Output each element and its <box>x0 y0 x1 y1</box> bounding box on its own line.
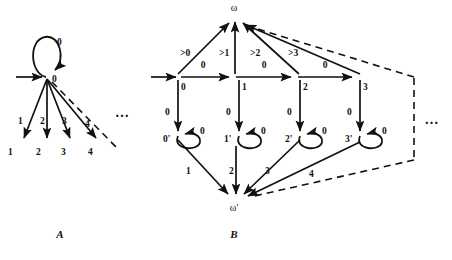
diagram-b-self-loop-label-0: 0 <box>200 126 205 136</box>
diagram-b-bottom-node-0: 0' <box>163 134 170 144</box>
diagram-a-edge-3 <box>47 79 70 138</box>
diagram-b-self-loop-0 <box>177 133 200 148</box>
diagram-a-edge-1 <box>24 79 47 138</box>
diagram-b-middle-node-2: 2 <box>303 82 308 92</box>
diagram-b-to-omega-label-2: >2 <box>250 48 260 58</box>
diagram-b-bottom-node-3: 3' <box>345 134 352 144</box>
diagram-b-to-omega-prime-label-1: 2 <box>229 166 234 176</box>
diagram-b-down-edge-label-0: 0 <box>165 107 170 117</box>
diagram-a: 0 0 1 2 3 4 1 2 3 4 … A <box>8 37 130 240</box>
diagram-b-to-omega-label-0: >0 <box>180 48 190 58</box>
diagram-b-bottom-node-1: 1' <box>224 134 231 144</box>
diagram-b-edge-dashed-to-omega <box>248 26 414 77</box>
diagram-b-to-omega-label-3: >3 <box>288 48 298 58</box>
diagram-b-horizontal-edge-label-2: 0 <box>262 60 267 70</box>
diagram-b: ω 0 0 0 0 1 2 3 >0 >1 >2 <box>151 2 440 240</box>
diagram-b-to-omega-prime-label-3: 4 <box>309 169 314 179</box>
diagram-b-self-loop-label-3: 0 <box>382 126 387 136</box>
diagram-b-ellipsis: … <box>425 112 440 127</box>
diagram-b-self-loop-2 <box>299 133 322 148</box>
diagram-b-middle-node-0: 0 <box>181 82 186 92</box>
diagram-b-bottom-node-label: ω' <box>230 202 239 213</box>
diagram-a-edge-label-3: 3 <box>62 116 67 126</box>
diagram-a-self-loop-label: 0 <box>57 37 62 47</box>
diagram-b-horizontal-edge-label-3: 0 <box>323 60 328 70</box>
diagram-b-bottom-node-2: 2' <box>285 134 292 144</box>
diagram-b-to-omega-label-1: >1 <box>219 48 229 58</box>
diagram-a-leaf-node-3: 3 <box>61 147 66 157</box>
figure-container: 0 0 1 2 3 4 1 2 3 4 … A <box>0 0 452 260</box>
diagram-b-self-loop-label-2: 0 <box>322 126 327 136</box>
diagram-a-ellipsis: … <box>115 105 130 120</box>
diagram-a-leaf-node-1: 1 <box>8 147 13 157</box>
diagram-b-horizontal-edge-label-1: 0 <box>201 60 206 70</box>
diagram-b-down-edge-label-3: 0 <box>347 107 352 117</box>
diagram-b-middle-node-3: 3 <box>363 82 368 92</box>
diagram-b-middle-node-1: 1 <box>242 82 247 92</box>
diagram-a-edge-label-1: 1 <box>18 116 23 126</box>
diagram-a-caption: A <box>55 228 63 240</box>
diagram-a-leaf-node-4: 4 <box>88 147 93 157</box>
automata-figure-svg: 0 0 1 2 3 4 1 2 3 4 … A <box>0 0 452 260</box>
diagram-b-to-omega-prime-label-2: 3 <box>265 166 270 176</box>
diagram-a-edge-label-2: 2 <box>40 116 45 126</box>
diagram-a-leaf-node-2: 2 <box>36 147 41 157</box>
diagram-b-to-omega-prime-label-0: 1 <box>186 166 191 176</box>
diagram-b-down-edge-label-1: 0 <box>226 107 231 117</box>
diagram-b-top-node-label: ω <box>231 2 238 13</box>
diagram-a-edge-label-4: 4 <box>85 119 90 129</box>
diagram-b-caption: B <box>229 228 237 240</box>
diagram-b-self-loop-1 <box>238 133 261 148</box>
diagram-b-self-loop-3 <box>359 133 382 148</box>
diagram-b-down-edge-label-2: 0 <box>287 107 292 117</box>
diagram-a-edge-4 <box>47 79 96 138</box>
diagram-b-self-loop-label-1: 0 <box>261 126 266 136</box>
